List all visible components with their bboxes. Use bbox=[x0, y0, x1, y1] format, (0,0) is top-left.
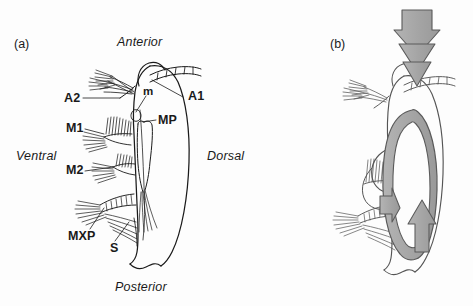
anatomy-label-a1: A1 bbox=[188, 90, 204, 103]
anatomy-label-mp: MP bbox=[158, 114, 177, 127]
orientation-label-posterior: Posterior bbox=[115, 281, 167, 294]
anatomy-label-m1: M1 bbox=[66, 122, 84, 135]
anatomy-label-mxp: MXP bbox=[68, 230, 95, 243]
anatomy-label-s: S bbox=[110, 242, 118, 255]
panel-label-a: (a) bbox=[14, 38, 29, 51]
orientation-label-anterior: Anterior bbox=[117, 36, 162, 49]
incoming-current-arrow bbox=[394, 10, 440, 86]
orientation-label-ventral: Ventral bbox=[16, 150, 57, 163]
circulation-loop-arrow bbox=[380, 110, 437, 260]
anatomy-label-m: m bbox=[143, 86, 153, 98]
orientation-label-dorsal: Dorsal bbox=[207, 150, 244, 163]
figure-container: (a) (b) Anterior Posterior Ventral Dorsa… bbox=[0, 0, 473, 306]
panel-label-b: (b) bbox=[330, 38, 345, 51]
anatomy-label-a2: A2 bbox=[64, 92, 80, 105]
anatomy-label-m2: M2 bbox=[66, 164, 84, 177]
